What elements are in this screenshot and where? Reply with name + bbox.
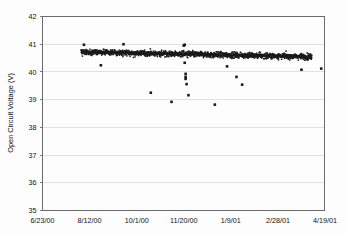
data-point <box>218 56 220 58</box>
data-point <box>273 53 275 55</box>
outlier-point-12 <box>235 76 238 79</box>
x-tick-label-3: 11/20/00 <box>170 216 197 225</box>
outlier-point-16 <box>83 43 86 46</box>
outlier-point-10 <box>214 103 217 106</box>
outlier-point-3 <box>183 61 186 64</box>
data-point <box>121 54 123 56</box>
data-point <box>195 56 197 58</box>
data-point <box>126 54 128 56</box>
scatter-points-group <box>80 48 312 61</box>
outlier-point-15 <box>320 67 323 70</box>
data-point <box>103 49 105 51</box>
data-point <box>226 57 228 59</box>
data-point <box>144 49 146 51</box>
data-point <box>83 49 85 51</box>
data-point <box>123 54 125 56</box>
data-point <box>88 51 90 53</box>
outlier-point-6 <box>184 78 187 81</box>
data-point <box>112 49 114 51</box>
data-point <box>163 54 165 56</box>
outlier-point-4 <box>184 73 187 76</box>
data-point <box>281 59 283 61</box>
data-point <box>157 56 159 58</box>
data-point <box>284 58 286 60</box>
data-point <box>161 49 163 51</box>
outlier-point-17 <box>122 43 125 46</box>
data-point <box>96 51 98 53</box>
y-tick-label-41: 41 <box>29 40 37 49</box>
data-point <box>199 55 201 57</box>
data-point <box>183 51 185 53</box>
data-point <box>82 55 84 57</box>
data-point <box>133 57 135 59</box>
data-point <box>160 56 162 58</box>
data-point <box>192 50 194 52</box>
outlier-point-14 <box>300 68 303 71</box>
data-point <box>278 59 280 61</box>
data-point <box>267 52 269 54</box>
data-point <box>169 50 171 52</box>
data-point <box>311 57 313 59</box>
data-point <box>187 57 189 59</box>
data-point <box>148 51 150 53</box>
y-tick-label-42: 42 <box>29 12 37 21</box>
data-point <box>284 53 286 55</box>
data-point <box>111 54 113 56</box>
data-point <box>180 56 182 58</box>
x-tick-label-4: 1/9/01 <box>221 216 241 225</box>
y-tick-label-38: 38 <box>29 123 37 132</box>
data-point <box>159 51 161 53</box>
data-point <box>233 58 235 60</box>
data-point <box>240 52 242 54</box>
data-point <box>214 56 216 58</box>
outlier-point-0 <box>100 64 103 67</box>
data-point <box>260 52 262 54</box>
y-tick-label-37: 37 <box>29 151 37 160</box>
data-point <box>168 56 170 58</box>
data-point <box>89 49 91 51</box>
data-point <box>210 57 212 59</box>
data-point <box>246 56 248 58</box>
outlier-point-13 <box>241 83 244 86</box>
data-point <box>154 50 156 52</box>
data-point <box>113 54 115 56</box>
data-point <box>278 57 280 59</box>
data-point <box>285 50 287 52</box>
outlier-point-7 <box>185 83 188 86</box>
x-tick-label-5: 2/28/01 <box>266 216 290 225</box>
data-point <box>179 51 181 53</box>
data-point <box>222 57 224 59</box>
data-point <box>236 51 238 53</box>
y-axis-title: Open Circuit Voltage (V) <box>6 73 15 153</box>
y-tick-label-40: 40 <box>29 68 37 77</box>
outlier-point-18 <box>183 43 186 46</box>
x-tick-labels-group: 6/23/008/12/0010/1/0011/20/001/9/012/28/… <box>31 216 337 225</box>
data-point <box>182 56 184 58</box>
data-point <box>161 51 163 53</box>
data-point <box>126 55 128 57</box>
x-tick-label-2: 10/1/00 <box>125 216 149 225</box>
data-point <box>114 49 116 51</box>
data-point <box>249 52 251 54</box>
data-point <box>308 59 310 61</box>
data-point <box>289 59 291 61</box>
data-point <box>122 56 124 58</box>
chart-figure: 3536373839404142 6/23/008/12/0010/1/0011… <box>0 0 347 236</box>
data-point <box>238 57 240 59</box>
data-point <box>274 57 276 59</box>
data-point <box>272 58 274 60</box>
data-point <box>311 55 313 57</box>
y-tick-labels-group: 3536373839404142 <box>29 12 37 215</box>
data-point <box>256 53 257 55</box>
data-point <box>134 56 136 58</box>
y-tick-label-35: 35 <box>29 206 37 215</box>
gridlines-group <box>43 44 326 183</box>
data-point <box>207 51 209 53</box>
data-point <box>190 55 192 57</box>
x-tick-label-0: 6/23/00 <box>31 216 55 225</box>
data-point <box>104 54 106 56</box>
outlier-point-11 <box>226 65 229 68</box>
data-point <box>96 49 98 51</box>
data-point <box>128 50 130 52</box>
data-point <box>270 53 272 55</box>
